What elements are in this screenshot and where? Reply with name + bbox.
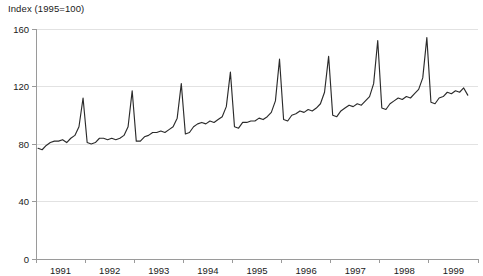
x-tick-label: 1998 — [394, 265, 415, 276]
gridlines — [36, 29, 478, 202]
y-tick-label: 120 — [13, 81, 29, 92]
x-tick-label: 1997 — [345, 265, 366, 276]
x-tick-label: 1993 — [148, 265, 169, 276]
chart-container: Index (1995=100) 04080120160 19911992199… — [0, 0, 483, 276]
y-tick-label: 160 — [13, 24, 29, 35]
x-tick-label: 1999 — [443, 265, 464, 276]
x-tick-label: 1991 — [50, 265, 71, 276]
x-tick-label: 1994 — [197, 265, 218, 276]
y-axis-ticks: 04080120160 — [13, 24, 36, 265]
y-tick-label: 40 — [18, 196, 29, 207]
data-series-line — [38, 38, 468, 150]
x-tick-label: 1992 — [99, 265, 120, 276]
x-tick-label: 1996 — [296, 265, 317, 276]
line-chart-plot: 04080120160 1991199219931994199519961997… — [0, 0, 483, 276]
x-axis-ticks: 199119921993199419951996199719981999 — [36, 259, 478, 276]
y-tick-label: 80 — [18, 139, 29, 150]
x-tick-label: 1995 — [246, 265, 267, 276]
y-tick-label: 0 — [24, 254, 29, 265]
